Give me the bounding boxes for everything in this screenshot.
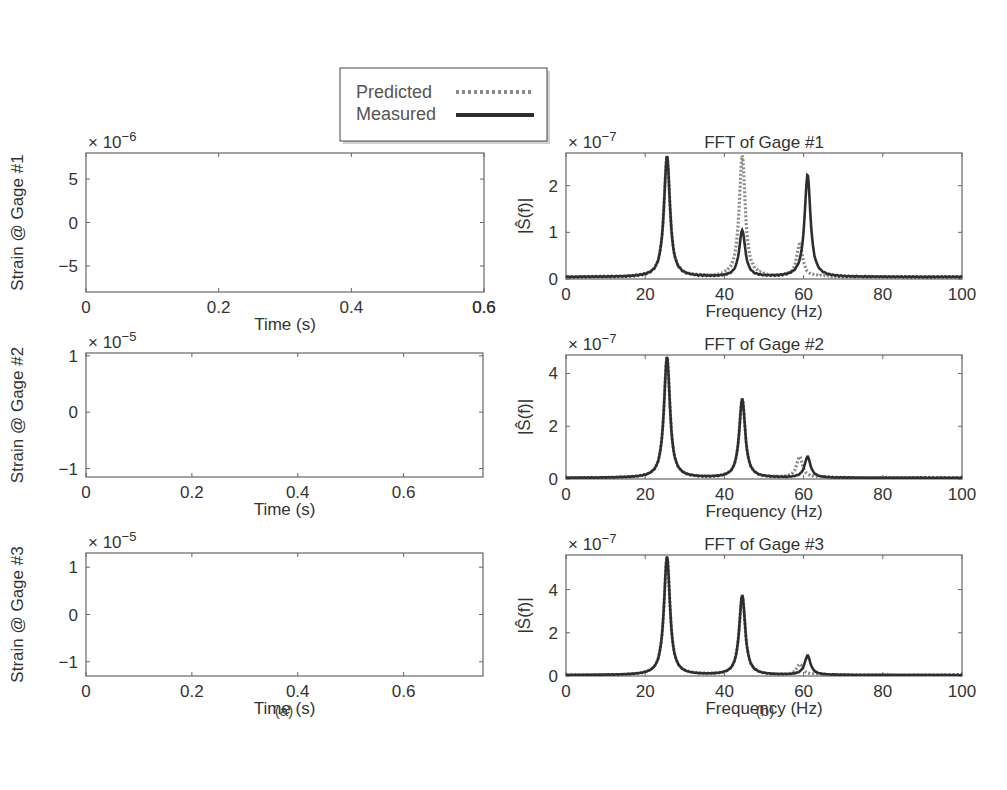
- y-exponent-label: × 10−5: [88, 329, 136, 352]
- x-tick-label: 20: [636, 682, 655, 701]
- y-axis-label: |Ŝ(f)|: [515, 198, 534, 234]
- y-tick-label: −1: [59, 653, 78, 672]
- plot-b1: 020406080100012× 10−7Frequency (Hz)|Ŝ(f)…: [515, 129, 976, 321]
- x-tick-label: 0: [561, 285, 570, 304]
- y-tick-label: 4: [549, 581, 558, 600]
- x-tick-label: 0: [81, 682, 90, 701]
- x-tick-label: 0: [81, 483, 90, 502]
- plot-b3: 020406080100024× 10−7Frequency (Hz)|Ŝ(f)…: [515, 531, 976, 718]
- figure: 00.20.40.60.650−5× 10−6Time (s)Strain @ …: [0, 0, 1007, 790]
- y-tick-label: 2: [549, 177, 558, 196]
- x-tick-label: 0.2: [180, 483, 204, 502]
- x-tick-label: 80: [873, 285, 892, 304]
- x-tick-label: 0: [81, 298, 90, 317]
- y-tick-label: 0: [549, 270, 558, 289]
- x-tick-label: 0.6: [472, 298, 496, 317]
- x-tick-label: 0.6: [392, 483, 416, 502]
- plot-title: FFT of Gage #3: [704, 535, 824, 554]
- y-exponent-label: × 10−6: [88, 129, 136, 152]
- plot-b2: 020406080100024× 10−7Frequency (Hz)|Ŝ(f)…: [515, 331, 976, 521]
- y-axis-label: Strain @ Gage #2: [8, 347, 27, 483]
- y-tick-label: 1: [549, 223, 558, 242]
- y-tick-label: 2: [549, 624, 558, 643]
- legend-label-predicted: Predicted: [356, 82, 432, 102]
- x-tick-label: 0: [561, 485, 570, 504]
- y-tick-label: 1: [69, 558, 78, 577]
- y-tick-label: 0: [69, 606, 78, 625]
- plot-title: FFT of Gage #2: [704, 335, 824, 354]
- x-tick-label: 0.2: [180, 682, 204, 701]
- y-axis-label: Strain @ Gage #1: [8, 154, 27, 290]
- y-tick-label: −5: [59, 257, 78, 276]
- y-tick-label: 0: [549, 667, 558, 686]
- y-tick-label: 0: [69, 214, 78, 233]
- y-tick-label: 5: [69, 170, 78, 189]
- x-tick-label: 100: [948, 682, 976, 701]
- y-tick-label: 4: [549, 364, 558, 383]
- x-axis-label: Time (s): [254, 500, 316, 519]
- caption-b: (b): [756, 702, 774, 719]
- y-axis-label: |Ŝ(f)|: [515, 597, 534, 633]
- legend: Predicted Measured: [340, 68, 550, 144]
- plot-a3: 00.20.40.610−1× 10−5Time (s)Strain @ Gag…: [8, 529, 483, 718]
- x-tick-label: 0.2: [207, 298, 231, 317]
- y-tick-label: 1: [69, 347, 78, 366]
- x-axis-label: Frequency (Hz): [705, 302, 822, 321]
- x-tick-label: 0.6: [392, 682, 416, 701]
- x-tick-label: 100: [948, 485, 976, 504]
- x-tick-label: 20: [636, 485, 655, 504]
- x-axis-label: Frequency (Hz): [705, 502, 822, 521]
- x-tick-label: 0.4: [340, 298, 364, 317]
- y-tick-label: 0: [69, 403, 78, 422]
- plot-title: FFT of Gage #1: [704, 133, 824, 152]
- y-axis-label: |Ŝ(f)|: [515, 399, 534, 435]
- plot-a1: 00.20.40.60.650−5× 10−6Time (s)Strain @ …: [8, 129, 496, 334]
- y-tick-label: −1: [59, 460, 78, 479]
- caption-a: (a): [275, 702, 293, 719]
- x-axis-label: Time (s): [254, 315, 316, 334]
- y-tick-label: 0: [549, 470, 558, 489]
- y-axis-label: Strain @ Gage #3: [8, 546, 27, 682]
- x-tick-label: 20: [636, 285, 655, 304]
- y-exponent-label: × 10−7: [568, 129, 616, 152]
- plot-a2: 00.20.40.610−1× 10−5Time (s)Strain @ Gag…: [8, 329, 483, 519]
- legend-label-measured: Measured: [356, 104, 436, 124]
- y-exponent-label: × 10−7: [568, 331, 616, 354]
- y-exponent-label: × 10−5: [88, 529, 136, 552]
- x-tick-label: 100: [948, 285, 976, 304]
- x-tick-label: 0: [561, 682, 570, 701]
- y-tick-label: 2: [549, 417, 558, 436]
- x-tick-label: 80: [873, 682, 892, 701]
- x-tick-label: 80: [873, 485, 892, 504]
- y-exponent-label: × 10−7: [568, 531, 616, 554]
